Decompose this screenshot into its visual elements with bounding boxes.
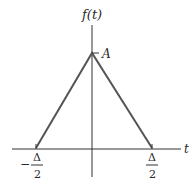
peak-label: A: [101, 47, 111, 61]
left-tick-numerator: Δ: [33, 151, 41, 164]
x-axis-label: t: [184, 142, 189, 156]
right-tick-numerator: Δ: [148, 151, 156, 164]
left-tick-label: − Δ 2: [20, 151, 43, 181]
triangle-pulse-curve: [36, 53, 152, 148]
left-tick-minus: −: [20, 157, 30, 171]
triangular-pulse-diagram: f(t) A t − Δ 2 Δ 2: [0, 0, 196, 185]
y-axis-label: f(t): [81, 7, 102, 22]
right-tick-denominator: 2: [149, 168, 156, 181]
left-tick-denominator: 2: [34, 168, 41, 181]
right-tick-label: Δ 2: [146, 151, 158, 181]
